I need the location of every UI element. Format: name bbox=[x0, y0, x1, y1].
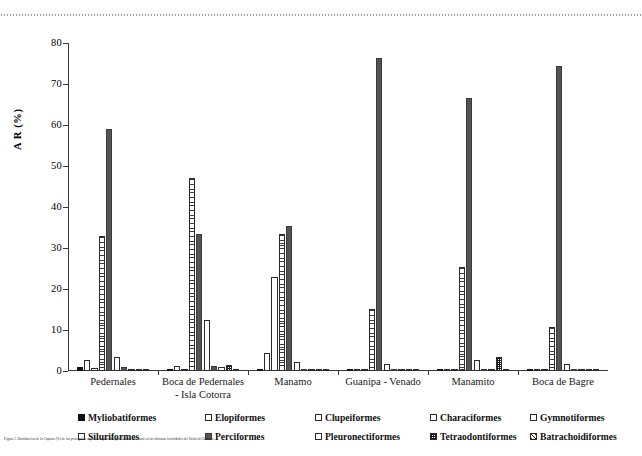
bar-myliobatiformes-4 bbox=[437, 369, 443, 371]
bar-pleuronectiformes-3 bbox=[398, 369, 404, 371]
bar-gymnotiformes-1 bbox=[196, 234, 202, 371]
y-tick bbox=[63, 371, 68, 372]
y-tick-label: 40 bbox=[51, 202, 62, 212]
bar-elopiformes-2 bbox=[264, 353, 270, 371]
x-group-separator bbox=[338, 371, 339, 375]
bar-pleuronectiformes-5 bbox=[578, 369, 584, 371]
y-tick bbox=[63, 166, 68, 167]
bar-batrachoidiformes-4 bbox=[503, 369, 509, 371]
legend-label: Myliobatiformes bbox=[88, 412, 156, 423]
bar-gymnotiformes-3 bbox=[376, 58, 382, 371]
bar-perciformes-1 bbox=[211, 366, 217, 371]
bar-perciformes-3 bbox=[391, 369, 397, 371]
bar-clupeiformes-1 bbox=[181, 369, 187, 371]
y-tick-label: 80 bbox=[51, 38, 62, 48]
figure-caption: Figura 2. Distribucion de la Captura (%)… bbox=[4, 437, 640, 442]
bar-myliobatiformes-3 bbox=[347, 369, 353, 371]
bar-siluriformes-2 bbox=[294, 362, 300, 371]
bar-elopiformes-1 bbox=[174, 366, 180, 371]
bar-perciformes-0 bbox=[121, 367, 127, 371]
bar-siluriformes-5 bbox=[564, 364, 570, 371]
bar-siluriformes-4 bbox=[474, 360, 480, 371]
legend-item-characiformes: Characiformes bbox=[430, 412, 501, 423]
top-dotted-rule bbox=[0, 14, 642, 16]
x-group-separator bbox=[248, 371, 249, 375]
bar-siluriformes-1 bbox=[204, 320, 210, 371]
x-group-separator bbox=[158, 371, 159, 375]
bar-gymnotiformes-4 bbox=[466, 98, 472, 371]
bar-clupeiformes-0 bbox=[91, 368, 97, 371]
bar-characiformes-2 bbox=[279, 234, 285, 371]
bar-myliobatiformes-1 bbox=[167, 369, 173, 371]
bar-gymnotiformes-5 bbox=[556, 66, 562, 371]
bar-tetraodontiformes-3 bbox=[406, 369, 412, 371]
legend-swatch-icon bbox=[430, 414, 437, 421]
bar-batrachoidiformes-0 bbox=[143, 369, 149, 371]
legend-swatch-icon bbox=[205, 414, 212, 421]
bar-elopiformes-4 bbox=[444, 369, 450, 371]
bar-characiformes-5 bbox=[549, 327, 555, 371]
y-tick-label: 10 bbox=[51, 325, 62, 335]
y-axis-line bbox=[68, 43, 69, 371]
y-tick-label: 0 bbox=[57, 366, 62, 376]
x-axis-category-labels: PedernalesBoca de Pedernales- Isla Cotor… bbox=[68, 376, 608, 406]
bar-characiformes-4 bbox=[459, 267, 465, 371]
y-tick bbox=[63, 330, 68, 331]
chart-legend: MyliobatiformesElopiformesClupeiformesCh… bbox=[0, 412, 642, 452]
bar-tetraodontiformes-2 bbox=[316, 369, 322, 371]
bar-elopiformes-5 bbox=[534, 369, 540, 371]
legend-item-gymnotiformes: Gymnotiformes bbox=[530, 412, 604, 423]
bar-perciformes-2 bbox=[301, 369, 307, 371]
y-tick bbox=[63, 43, 68, 44]
bar-elopiformes-3 bbox=[354, 369, 360, 371]
bar-gymnotiformes-2 bbox=[286, 226, 292, 371]
y-tick bbox=[63, 84, 68, 85]
bar-tetraodontiformes-1 bbox=[226, 365, 232, 371]
x-category-label-5: Boca de Bagre bbox=[504, 376, 622, 389]
legend-label: Clupeiformes bbox=[325, 412, 380, 423]
bar-characiformes-1 bbox=[189, 178, 195, 371]
bar-perciformes-4 bbox=[481, 369, 487, 371]
y-tick-label: 30 bbox=[51, 243, 62, 253]
bar-clupeiformes-2 bbox=[271, 277, 277, 371]
bar-myliobatiformes-2 bbox=[257, 369, 263, 371]
bar-perciformes-5 bbox=[571, 369, 577, 371]
bar-tetraodontiformes-5 bbox=[586, 369, 592, 371]
legend-label: Characiformes bbox=[440, 412, 501, 423]
y-tick-label: 50 bbox=[51, 161, 62, 171]
legend-swatch-icon bbox=[530, 414, 537, 421]
bar-characiformes-3 bbox=[369, 309, 375, 371]
bar-tetraodontiformes-0 bbox=[136, 369, 142, 371]
bar-clupeiformes-4 bbox=[451, 369, 457, 371]
bar-pleuronectiformes-0 bbox=[128, 369, 134, 371]
bar-characiformes-0 bbox=[99, 236, 105, 371]
legend-swatch-icon bbox=[315, 414, 322, 421]
bar-pleuronectiformes-1 bbox=[218, 367, 224, 371]
y-axis-title: A R (%) bbox=[12, 108, 23, 150]
legend-item-clupeiformes: Clupeiformes bbox=[315, 412, 380, 423]
bar-batrachoidiformes-3 bbox=[413, 369, 419, 371]
bar-tetraodontiformes-4 bbox=[496, 357, 502, 371]
bar-pleuronectiformes-4 bbox=[488, 369, 494, 371]
bar-batrachoidiformes-2 bbox=[323, 369, 329, 371]
y-tick bbox=[63, 248, 68, 249]
y-tick-label: 70 bbox=[51, 79, 62, 89]
y-tick-label: 60 bbox=[51, 120, 62, 130]
legend-item-myliobatiformes: Myliobatiformes bbox=[78, 412, 156, 423]
legend-row-1: MyliobatiformesElopiformesClupeiformesCh… bbox=[0, 412, 642, 428]
bar-siluriformes-0 bbox=[114, 357, 120, 371]
y-tick-label: 20 bbox=[51, 284, 62, 294]
plot-area: 01020304050607080 bbox=[68, 43, 608, 371]
bar-gymnotiformes-0 bbox=[106, 129, 112, 371]
bar-batrachoidiformes-1 bbox=[233, 369, 239, 371]
bar-siluriformes-3 bbox=[384, 364, 390, 371]
bar-clupeiformes-3 bbox=[361, 369, 367, 371]
x-group-separator bbox=[518, 371, 519, 375]
y-tick bbox=[63, 125, 68, 126]
legend-label: Elopiformes bbox=[215, 412, 265, 423]
y-tick bbox=[63, 207, 68, 208]
legend-item-elopiformes: Elopiformes bbox=[205, 412, 265, 423]
y-axis-tick-labels: 01020304050607080 bbox=[28, 43, 62, 371]
y-tick bbox=[63, 289, 68, 290]
bar-elopiformes-0 bbox=[84, 360, 90, 371]
